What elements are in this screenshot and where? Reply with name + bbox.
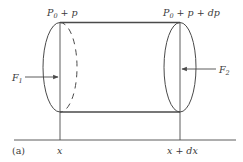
cylinder-body: [60, 23, 180, 113]
left-ellipse-front-arc: [43, 23, 60, 113]
pressure-right-label: P0 + p + dp: [162, 7, 220, 20]
panel-label: (a): [12, 145, 25, 156]
fluid-element-diagram: P0 + p P0 + p + dp F1 F2 (a) x x + dx: [0, 0, 243, 162]
position-right-label: x + dx: [167, 145, 198, 156]
pressure-left-label: P0 + p: [46, 7, 78, 20]
left-cross-section: [43, 23, 77, 141]
right-cross-section: [164, 23, 196, 141]
position-left-label: x: [57, 145, 63, 156]
force-left-label: F1: [11, 72, 23, 85]
force-right-label: F2: [218, 64, 230, 77]
left-ellipse-hidden-arc: [60, 23, 77, 113]
